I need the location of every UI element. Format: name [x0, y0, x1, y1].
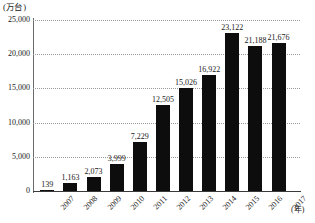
bar-value-label: 16,922	[198, 66, 220, 74]
bar-slot: 21,188	[248, 20, 262, 191]
bar-slot: 3,999	[110, 20, 124, 191]
bar-value-label: 7,229	[131, 133, 149, 141]
y-axis-tick-label: 20,000	[8, 50, 30, 58]
bar-slot: 139	[40, 20, 54, 191]
x-axis-tick-label: 2011	[151, 194, 168, 211]
bar[interactable]: 7,229	[133, 142, 147, 191]
bar[interactable]: 3,999	[110, 164, 124, 191]
bar-value-label: 21,188	[244, 37, 266, 45]
y-axis-tick-label: 15,000	[8, 84, 30, 92]
bar-value-label: 21,676	[268, 34, 290, 42]
x-axis-tick-label: 2013	[198, 194, 216, 212]
bar-slot: 21,676	[272, 20, 286, 191]
bar-chart: (万台) (年) 05,00010,00015,00020,00025,0001…	[0, 0, 315, 223]
bar-slot: 16,922	[202, 20, 216, 191]
y-axis-tick-label: 25,000	[8, 16, 30, 24]
bar-value-label: 2,073	[85, 168, 103, 176]
bar-value-label: 15,026	[175, 79, 197, 87]
bar-slot: 7,229	[133, 20, 147, 191]
x-axis-tick-label: 2014	[221, 194, 239, 212]
bar-slot: 2,073	[87, 20, 101, 191]
bar-value-label: 12,505	[152, 96, 174, 104]
bar[interactable]: 21,188	[248, 46, 262, 191]
bar-slot: 12,505	[156, 20, 170, 191]
bar-slot: 23,122	[225, 20, 239, 191]
y-axis-tick-label: 0	[26, 187, 30, 195]
bar[interactable]: 1,163	[63, 183, 77, 191]
bar-value-label: 3,999	[108, 155, 126, 163]
x-axis-tick-label: 2007	[59, 194, 77, 212]
gridline	[33, 191, 300, 192]
y-axis-tick-label: 5,000	[12, 153, 30, 161]
bar-value-label: 1,163	[61, 174, 79, 182]
bar-slot: 1,163	[63, 20, 77, 191]
x-axis-tick-label: 2016	[267, 194, 285, 212]
y-axis-tick-label: 10,000	[8, 119, 30, 127]
bar-value-label: 23,122	[221, 24, 243, 32]
x-axis-tick-label: 2012	[175, 194, 193, 212]
bar-value-label: 139	[41, 181, 53, 189]
bar[interactable]: 16,922	[202, 75, 216, 191]
bar[interactable]: 2,073	[87, 177, 101, 191]
bar[interactable]: 15,026	[179, 88, 193, 191]
y-axis-unit-label: (万台)	[3, 2, 26, 12]
plot-area: 05,00010,00015,00020,00025,0001391,1632,…	[33, 20, 300, 191]
bar[interactable]: 23,122	[225, 33, 239, 191]
x-axis-tick-label: 2009	[105, 194, 123, 212]
bar-slot: 15,026	[179, 20, 193, 191]
x-axis-tick-label: 2015	[244, 194, 262, 212]
bar[interactable]: 139	[40, 190, 54, 191]
x-axis-tick-label: 2010	[128, 194, 146, 212]
bar[interactable]: 12,505	[156, 105, 170, 191]
bar[interactable]: 21,676	[272, 43, 286, 191]
x-axis-tick-label: 2008	[82, 194, 100, 212]
